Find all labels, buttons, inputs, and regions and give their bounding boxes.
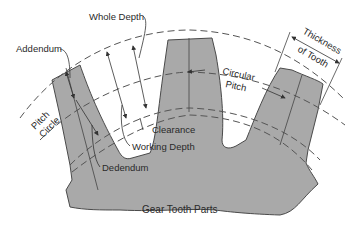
whole-depth-arrow bbox=[107, 52, 126, 118]
whole-depth-leader bbox=[139, 16, 146, 58]
diagram-caption: Gear Tooth Parts bbox=[142, 204, 217, 215]
label-whole-depth: Whole Depth bbox=[89, 11, 144, 22]
label-clearance: Clearance bbox=[152, 124, 195, 135]
label-working-depth: Working Depth bbox=[132, 141, 195, 152]
clearance-leader bbox=[140, 118, 143, 130]
label-addendum: Addendum bbox=[16, 43, 62, 54]
gear-tooth-diagram: Whole Depth Addendum Pitch Circle Dedend… bbox=[0, 0, 354, 227]
gear-diagram-svg: Whole Depth Addendum Pitch Circle Dedend… bbox=[0, 0, 354, 227]
thickness-ext-left bbox=[275, 32, 290, 72]
label-dedendum: Dedendum bbox=[102, 162, 149, 173]
